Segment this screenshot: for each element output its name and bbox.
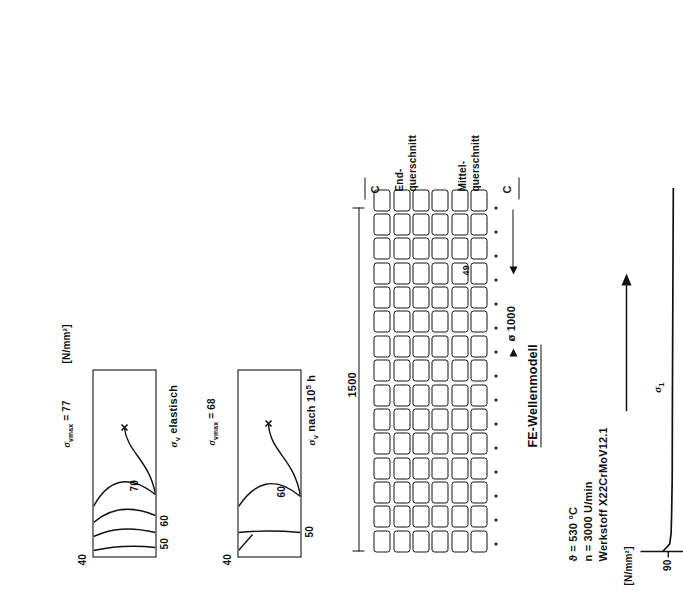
fe-mesh-grid[interactable] bbox=[372, 187, 488, 553]
mesh-cell[interactable] bbox=[451, 237, 468, 259]
mesh-cell[interactable] bbox=[373, 359, 390, 381]
mesh-cell[interactable] bbox=[373, 286, 390, 308]
mesh-cell[interactable] bbox=[412, 530, 429, 552]
mesh-cell[interactable] bbox=[393, 213, 410, 235]
mesh-cell[interactable] bbox=[431, 384, 448, 406]
mesh-cell[interactable] bbox=[470, 213, 487, 235]
mesh-cell[interactable] bbox=[431, 505, 448, 527]
mesh-cell[interactable] bbox=[393, 481, 410, 503]
mesh-cell[interactable] bbox=[412, 335, 429, 357]
mesh-cell[interactable] bbox=[412, 432, 429, 454]
axis-dash-end bbox=[364, 177, 365, 199]
mesh-cell[interactable] bbox=[431, 481, 448, 503]
mesh-cell[interactable] bbox=[412, 286, 429, 308]
mesh-cell[interactable] bbox=[412, 408, 429, 430]
mesh-cell[interactable] bbox=[412, 237, 429, 259]
mesh-cell[interactable] bbox=[431, 286, 448, 308]
mesh-cell[interactable] bbox=[451, 530, 468, 552]
mesh-cell[interactable] bbox=[451, 408, 468, 430]
mesh-cell[interactable] bbox=[373, 335, 390, 357]
mesh-cell[interactable] bbox=[431, 237, 448, 259]
mesh-cell[interactable] bbox=[393, 310, 410, 332]
mesh-cell[interactable] bbox=[412, 262, 429, 284]
mesh-cell[interactable] bbox=[373, 481, 390, 503]
mesh-cell[interactable] bbox=[451, 189, 468, 211]
mesh-cell[interactable] bbox=[393, 408, 410, 430]
mesh-cell[interactable] bbox=[412, 359, 429, 381]
mesh-cell[interactable] bbox=[431, 432, 448, 454]
mesh-cell[interactable] bbox=[373, 310, 390, 332]
mesh-cell[interactable] bbox=[373, 384, 390, 406]
mesh-cell[interactable] bbox=[412, 505, 429, 527]
mesh-cell[interactable] bbox=[431, 359, 448, 381]
unit-n-per-mm2: [N/mm²] bbox=[60, 324, 71, 363]
mesh-cell[interactable] bbox=[373, 432, 390, 454]
mesh-cell[interactable] bbox=[393, 359, 410, 381]
mesh-cell[interactable] bbox=[431, 408, 448, 430]
sigma-vmax-elastic: σvmax = 77 bbox=[60, 400, 73, 447]
mesh-cell[interactable] bbox=[373, 408, 390, 430]
mesh-cell[interactable] bbox=[431, 310, 448, 332]
mesh-cell[interactable] bbox=[451, 432, 468, 454]
mesh-cell[interactable] bbox=[470, 286, 487, 308]
table-row bbox=[372, 187, 391, 553]
mesh-cell[interactable] bbox=[470, 189, 487, 211]
mesh-cell[interactable] bbox=[393, 286, 410, 308]
chart-series-1 bbox=[662, 187, 673, 551]
mesh-cell[interactable] bbox=[393, 189, 410, 211]
mesh-cell[interactable] bbox=[451, 359, 468, 381]
mesh-cell[interactable] bbox=[451, 505, 468, 527]
mesh-cell[interactable] bbox=[373, 530, 390, 552]
mesh-cell[interactable] bbox=[393, 505, 410, 527]
mesh-cell[interactable] bbox=[373, 505, 390, 527]
mesh-cell[interactable] bbox=[393, 335, 410, 357]
mesh-cell[interactable] bbox=[470, 359, 487, 381]
mesh-cell[interactable] bbox=[431, 189, 448, 211]
mesh-cell[interactable] bbox=[470, 310, 487, 332]
table-row bbox=[411, 187, 430, 553]
mesh-cell[interactable] bbox=[451, 384, 468, 406]
mesh-cell[interactable] bbox=[393, 457, 410, 479]
mesh-cell[interactable] bbox=[451, 335, 468, 357]
mesh-cell[interactable] bbox=[412, 384, 429, 406]
mesh-cell[interactable] bbox=[451, 310, 468, 332]
mesh-cell[interactable] bbox=[470, 457, 487, 479]
mesh-cell[interactable] bbox=[470, 432, 487, 454]
mesh-cell[interactable] bbox=[373, 213, 390, 235]
dimension-line-1500 bbox=[358, 207, 359, 551]
mesh-cell[interactable] bbox=[393, 384, 410, 406]
mesh-cell[interactable] bbox=[431, 213, 448, 235]
contour-lines-creep bbox=[238, 371, 300, 557]
mesh-cell[interactable] bbox=[470, 408, 487, 430]
mesh-cell[interactable] bbox=[412, 457, 429, 479]
caption-creep: σv nach 105 h bbox=[303, 374, 320, 445]
mesh-cell[interactable] bbox=[393, 530, 410, 552]
mesh-cell[interactable] bbox=[470, 262, 487, 284]
mesh-cell[interactable] bbox=[431, 457, 448, 479]
mesh-cell[interactable] bbox=[451, 286, 468, 308]
arrow-right-icon bbox=[506, 347, 520, 361]
mesh-cell[interactable] bbox=[393, 432, 410, 454]
mesh-cell[interactable] bbox=[373, 457, 390, 479]
mesh-cell[interactable] bbox=[470, 505, 487, 527]
mesh-cell[interactable] bbox=[470, 481, 487, 503]
mesh-cell[interactable] bbox=[470, 237, 487, 259]
mesh-cell[interactable] bbox=[412, 213, 429, 235]
mesh-cell[interactable] bbox=[393, 237, 410, 259]
mesh-cell[interactable] bbox=[451, 213, 468, 235]
mesh-cell[interactable] bbox=[393, 262, 410, 284]
mesh-cell[interactable] bbox=[431, 262, 448, 284]
mesh-cell[interactable] bbox=[373, 237, 390, 259]
contour-label-elastic-50: 50 bbox=[158, 537, 169, 549]
mesh-cell[interactable] bbox=[412, 481, 429, 503]
mesh-cell[interactable] bbox=[470, 530, 487, 552]
mesh-cell[interactable] bbox=[470, 335, 487, 357]
mesh-cell[interactable] bbox=[431, 530, 448, 552]
mesh-cell[interactable] bbox=[373, 262, 390, 284]
mesh-cell[interactable] bbox=[412, 189, 429, 211]
mesh-cell[interactable] bbox=[451, 457, 468, 479]
mesh-cell[interactable] bbox=[470, 384, 487, 406]
mesh-cell[interactable] bbox=[431, 335, 448, 357]
mesh-cell[interactable] bbox=[451, 481, 468, 503]
mesh-cell[interactable] bbox=[412, 310, 429, 332]
